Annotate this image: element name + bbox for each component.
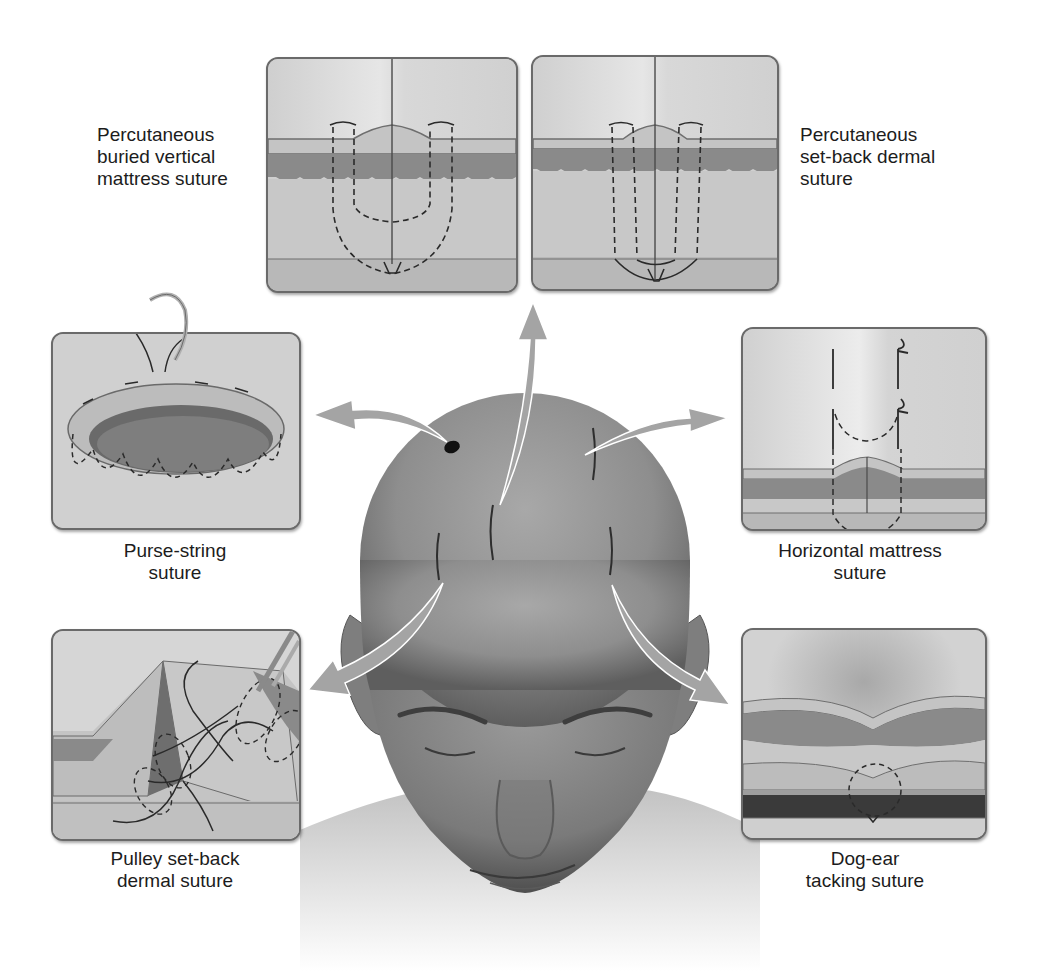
panel-percutaneous-set-back-dermal [531, 55, 779, 291]
label-dog-ear-tacking: Dog-ear tacking suture [780, 848, 950, 892]
label-percutaneous-buried-vertical-mattress: Percutaneous buried vertical mattress su… [97, 124, 228, 190]
panel-dog-ear-tacking [741, 628, 987, 840]
panel-pulley-set-back-dermal [51, 629, 301, 841]
panel-horizontal-mattress [741, 327, 987, 531]
label-purse-string: Purse-string suture [110, 540, 240, 584]
purse-string-needle [140, 290, 200, 370]
label-pulley-set-back-dermal: Pulley set-back dermal suture [80, 848, 270, 892]
panel-percutaneous-buried-vertical-mattress [266, 57, 518, 293]
suture-techniques-figure: Percutaneous buried vertical mattress su… [0, 0, 1039, 971]
label-horizontal-mattress: Horizontal mattress suture [760, 540, 960, 584]
label-percutaneous-set-back-dermal: Percutaneous set-back dermal suture [800, 124, 935, 190]
